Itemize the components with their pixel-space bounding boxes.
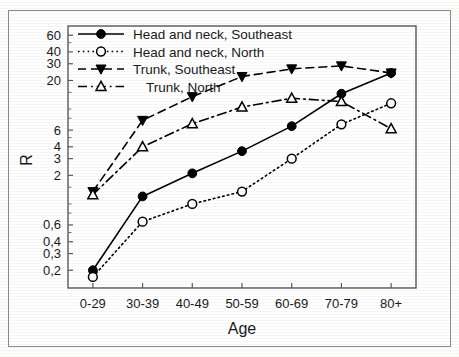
figure-container: 0,20,30,40,6234620304060 0-2930-3940-495… bbox=[0, 0, 459, 357]
data-point-open-circle bbox=[287, 154, 296, 163]
data-point-open-circle bbox=[387, 99, 396, 108]
y-tick-label: 6 bbox=[54, 123, 61, 138]
data-point-open-triangle-up bbox=[386, 124, 396, 133]
data-point-filled-circle bbox=[287, 122, 296, 131]
x-tick-label: 50-59 bbox=[225, 296, 258, 311]
x-tick-label: 40-49 bbox=[176, 296, 209, 311]
x-axis-title: Age bbox=[228, 320, 257, 337]
legend-label: Head and neck, Southeast bbox=[133, 27, 292, 42]
y-tick-label: 0,4 bbox=[43, 234, 61, 249]
series-3 bbox=[88, 93, 396, 199]
data-point-open-triangle-up bbox=[237, 102, 247, 111]
data-point-open-triangle-up bbox=[138, 142, 148, 151]
x-axis-tick-labels: 0-2930-3940-4950-5960-6970-7980+ bbox=[80, 296, 402, 311]
data-point-open-circle bbox=[188, 200, 197, 209]
data-point-open-circle bbox=[238, 187, 247, 196]
y-axis-title: R bbox=[18, 154, 35, 166]
x-axis-ticks bbox=[93, 283, 391, 288]
y-tick-label: 40 bbox=[47, 44, 61, 59]
legend-label: Trunk, North bbox=[146, 80, 221, 95]
legend-label: Head and neck, North bbox=[133, 45, 264, 60]
y-axis-tick-labels: 0,20,30,40,6234620304060 bbox=[43, 28, 61, 278]
legend-label: Trunk, Southeast bbox=[133, 62, 236, 77]
data-point-filled-circle bbox=[188, 169, 197, 178]
y-tick-label: 0,2 bbox=[43, 263, 61, 278]
data-point-filled-circle bbox=[238, 147, 247, 156]
y-tick-label: 20 bbox=[47, 73, 61, 88]
x-tick-label: 80+ bbox=[380, 296, 402, 311]
y-tick-label: 4 bbox=[54, 139, 61, 154]
line-chart: 0,20,30,40,6234620304060 0-2930-3940-495… bbox=[0, 0, 459, 357]
data-point-open-circle bbox=[138, 217, 147, 226]
data-point-open-circle bbox=[337, 120, 346, 129]
data-point-filled-circle bbox=[138, 192, 147, 201]
x-tick-label: 70-79 bbox=[325, 296, 358, 311]
data-point-open-circle bbox=[88, 273, 97, 282]
data-point-open-circle bbox=[97, 47, 106, 56]
series-1 bbox=[88, 99, 395, 281]
data-point-filled-circle bbox=[97, 30, 106, 39]
y-tick-label: 0,6 bbox=[43, 217, 61, 232]
y-axis-ticks bbox=[68, 35, 73, 270]
chart-legend: Head and neck, SoutheastHead and neck, N… bbox=[74, 24, 306, 102]
x-tick-label: 60-69 bbox=[275, 296, 308, 311]
y-tick-label: 60 bbox=[47, 28, 61, 43]
data-point-open-triangle-up bbox=[336, 96, 346, 105]
y-tick-label: 2 bbox=[54, 168, 61, 183]
x-tick-label: 0-29 bbox=[80, 296, 106, 311]
x-tick-label: 30-39 bbox=[126, 296, 159, 311]
